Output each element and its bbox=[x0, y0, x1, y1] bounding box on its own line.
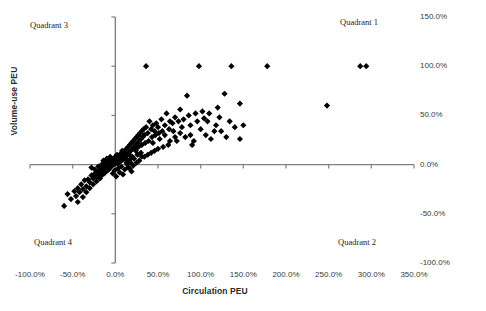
data-point bbox=[187, 132, 193, 138]
data-point bbox=[198, 126, 204, 132]
data-point bbox=[240, 122, 246, 128]
y-tick-label: 150.0% bbox=[420, 12, 447, 21]
data-point bbox=[208, 136, 214, 142]
data-point bbox=[227, 118, 233, 124]
data-point bbox=[232, 124, 238, 130]
data-point bbox=[177, 106, 183, 112]
y-tick-label: 0.0% bbox=[420, 160, 438, 169]
data-point bbox=[196, 63, 202, 69]
y-tick-label: -100.0% bbox=[420, 258, 450, 267]
data-point bbox=[157, 136, 163, 142]
data-point bbox=[237, 100, 243, 106]
data-point bbox=[357, 63, 363, 69]
data-point bbox=[237, 136, 243, 142]
data-point bbox=[181, 116, 187, 122]
data-point bbox=[216, 114, 222, 120]
data-point bbox=[218, 128, 224, 134]
data-point bbox=[215, 104, 221, 110]
data-point bbox=[199, 108, 205, 114]
data-point bbox=[143, 63, 149, 69]
data-point bbox=[228, 63, 234, 69]
data-point bbox=[206, 110, 212, 116]
data-point bbox=[179, 124, 185, 130]
data-point bbox=[80, 194, 86, 200]
data-point bbox=[194, 118, 200, 124]
data-point bbox=[160, 144, 166, 150]
data-point bbox=[186, 112, 192, 118]
plot-area bbox=[0, 0, 486, 311]
data-point bbox=[203, 132, 209, 138]
data-point bbox=[363, 63, 369, 69]
data-point bbox=[68, 196, 74, 202]
data-point bbox=[182, 134, 188, 140]
y-tick-label: 100.0% bbox=[420, 61, 447, 70]
data-point bbox=[187, 122, 193, 128]
data-point bbox=[192, 110, 198, 116]
data-point bbox=[163, 110, 169, 116]
data-point bbox=[61, 203, 67, 209]
scatter-chart: Volume-use PEU Circulation PEU Quadrant … bbox=[0, 0, 486, 311]
data-point bbox=[324, 102, 330, 108]
data-point bbox=[177, 130, 183, 136]
data-point bbox=[223, 134, 229, 140]
y-tick-label: -50.0% bbox=[420, 209, 445, 218]
data-point bbox=[64, 191, 70, 197]
data-point bbox=[221, 91, 227, 97]
data-point bbox=[75, 199, 81, 205]
data-point bbox=[158, 116, 164, 122]
data-point bbox=[213, 122, 219, 128]
data-point bbox=[162, 122, 168, 128]
x-tick-label: 350.0% bbox=[388, 270, 440, 279]
data-point bbox=[264, 63, 270, 69]
y-tick-label: 50.0% bbox=[420, 110, 443, 119]
data-point bbox=[184, 93, 190, 99]
data-point bbox=[211, 128, 217, 134]
